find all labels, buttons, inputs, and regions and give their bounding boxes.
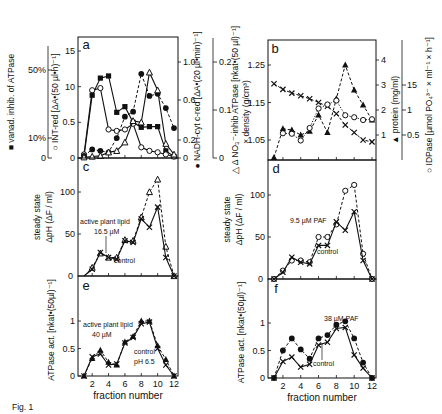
annotation: 40 µM: [92, 331, 112, 339]
series-f0: [271, 318, 375, 380]
circle-marker: [307, 125, 312, 130]
triangle-filled-marker: [138, 318, 144, 324]
circle-marker: [139, 145, 144, 150]
y-tick-label: 0: [260, 373, 265, 383]
y-tick-label: 10: [65, 82, 75, 92]
nadh-tick-label: 0: [183, 153, 188, 163]
dot-marker: [280, 348, 286, 354]
circle-marker: [334, 98, 339, 103]
circle-marker: [316, 106, 321, 111]
no3-tick-label: 0: [219, 153, 224, 163]
triangle-marker: [146, 69, 152, 75]
dot-marker: [130, 109, 136, 115]
dot-marker: [163, 105, 169, 111]
annotation: control: [114, 257, 135, 264]
triangle-filled-marker: [298, 132, 304, 138]
cross-marker: [343, 228, 348, 233]
series-line: [84, 321, 174, 376]
circle-marker: [316, 234, 321, 239]
panel-b-frame: [268, 40, 376, 160]
y-tick-label: 15: [65, 46, 75, 56]
y-tick-label: 1: [70, 316, 75, 326]
cross-marker: [360, 137, 365, 142]
circle-marker: [325, 102, 330, 107]
series-b0: [271, 81, 374, 144]
series-b1: [271, 62, 375, 161]
cross-marker: [298, 93, 303, 98]
square-marker: [114, 110, 119, 115]
dot-marker: [89, 147, 95, 153]
circle-marker: [325, 234, 330, 239]
cross-marker: [289, 355, 294, 360]
dot-marker: [298, 347, 304, 353]
annotation: pH 6.5: [134, 358, 155, 366]
idpase-axis-label: ○ IDPase [µmol PO₄³⁻ × ml⁻¹ × h⁻¹]: [424, 37, 434, 173]
circle-marker: [343, 113, 348, 118]
series-line: [274, 321, 372, 378]
x-tick-label: 8: [334, 381, 339, 391]
y-tick-label: 50: [255, 232, 265, 242]
nadh-axis-label: ● NADH-cyt c-red [ΔA•(20 µl•min)⁻¹]: [192, 31, 202, 168]
circle-marker: [298, 138, 303, 143]
series-c1: [84, 205, 177, 279]
cross-marker: [307, 96, 312, 101]
square-marker: [122, 104, 127, 109]
circle-marker: [343, 188, 348, 193]
y-tick-label: 0: [70, 371, 75, 381]
protein-tick-label: 2: [381, 105, 386, 115]
dot-marker: [351, 336, 357, 342]
no3-axis-label: △ Δ NO₃⁻-inhib ATPase [nkat•(50 µl)⁻¹]: [230, 26, 240, 174]
series-line: [274, 327, 372, 378]
series-line: [274, 185, 372, 279]
triangle-marker: [155, 87, 161, 93]
y-tick-label: 0.5: [62, 117, 75, 127]
dot-marker: [114, 135, 120, 141]
dot-marker: [147, 93, 153, 99]
triangle-filled-marker: [342, 62, 348, 68]
cross-marker: [369, 139, 374, 144]
x-axis-label: fraction number: [287, 392, 357, 403]
annotation: control: [134, 348, 155, 355]
circle-marker: [122, 127, 127, 132]
square-marker: [147, 124, 152, 129]
circle-marker: [289, 131, 294, 136]
ylabel-line2: ΔpH (ΔF / ml): [234, 194, 244, 246]
y-tick-label: 100: [250, 190, 265, 200]
cross-marker: [163, 362, 168, 367]
square-marker: [139, 125, 144, 130]
annotation: 9.5 µM PAF: [290, 217, 327, 225]
x-tick-label: 4: [298, 381, 303, 391]
cross-marker: [289, 91, 294, 96]
x-tick-label: 12: [367, 381, 377, 391]
circle-marker: [352, 182, 357, 187]
vanad-axis-label: ■ vanad. inhib. of ATPase: [6, 53, 16, 150]
circle-marker: [98, 85, 103, 90]
x-tick-label: 6: [316, 381, 321, 391]
vanad-tick-label: 0: [41, 153, 46, 163]
protein-axis-label: ▲ protein (mg/ml): [390, 76, 400, 144]
caption-fragment: Fig. 1: [12, 402, 34, 412]
ylabel-atpase: ATPase act. [nkat•(50µl)⁻¹]: [46, 279, 56, 381]
idpase-tick-label: 15: [407, 80, 417, 90]
panel-b-label: b: [271, 41, 278, 56]
idpase-tick-label: 0.5: [407, 130, 420, 140]
vanad-tick-label: 50%: [28, 65, 46, 75]
series-line: [274, 65, 372, 158]
panel-c-label: c: [83, 159, 90, 174]
x-tick-label: 12: [169, 379, 179, 389]
circle-marker: [352, 115, 357, 120]
protein-tick-label: 4: [381, 55, 386, 65]
triangle-marker: [155, 176, 161, 182]
y-tick-label: 0.5: [62, 344, 75, 354]
dot-marker: [289, 336, 295, 342]
x-tick-label: 4: [106, 379, 111, 389]
protein-tick-label: 3: [381, 80, 386, 90]
circle-marker: [147, 148, 152, 153]
cross-marker: [280, 359, 285, 364]
ylabel-line2: ΔpH (ΔF / ml): [44, 191, 54, 243]
x-axis-label: fraction number: [93, 390, 163, 401]
y-tick-label: 1: [260, 318, 265, 328]
series-e1: [81, 320, 176, 379]
y-tick-label: 100: [60, 187, 75, 197]
x-tick-label: 6: [122, 379, 127, 389]
